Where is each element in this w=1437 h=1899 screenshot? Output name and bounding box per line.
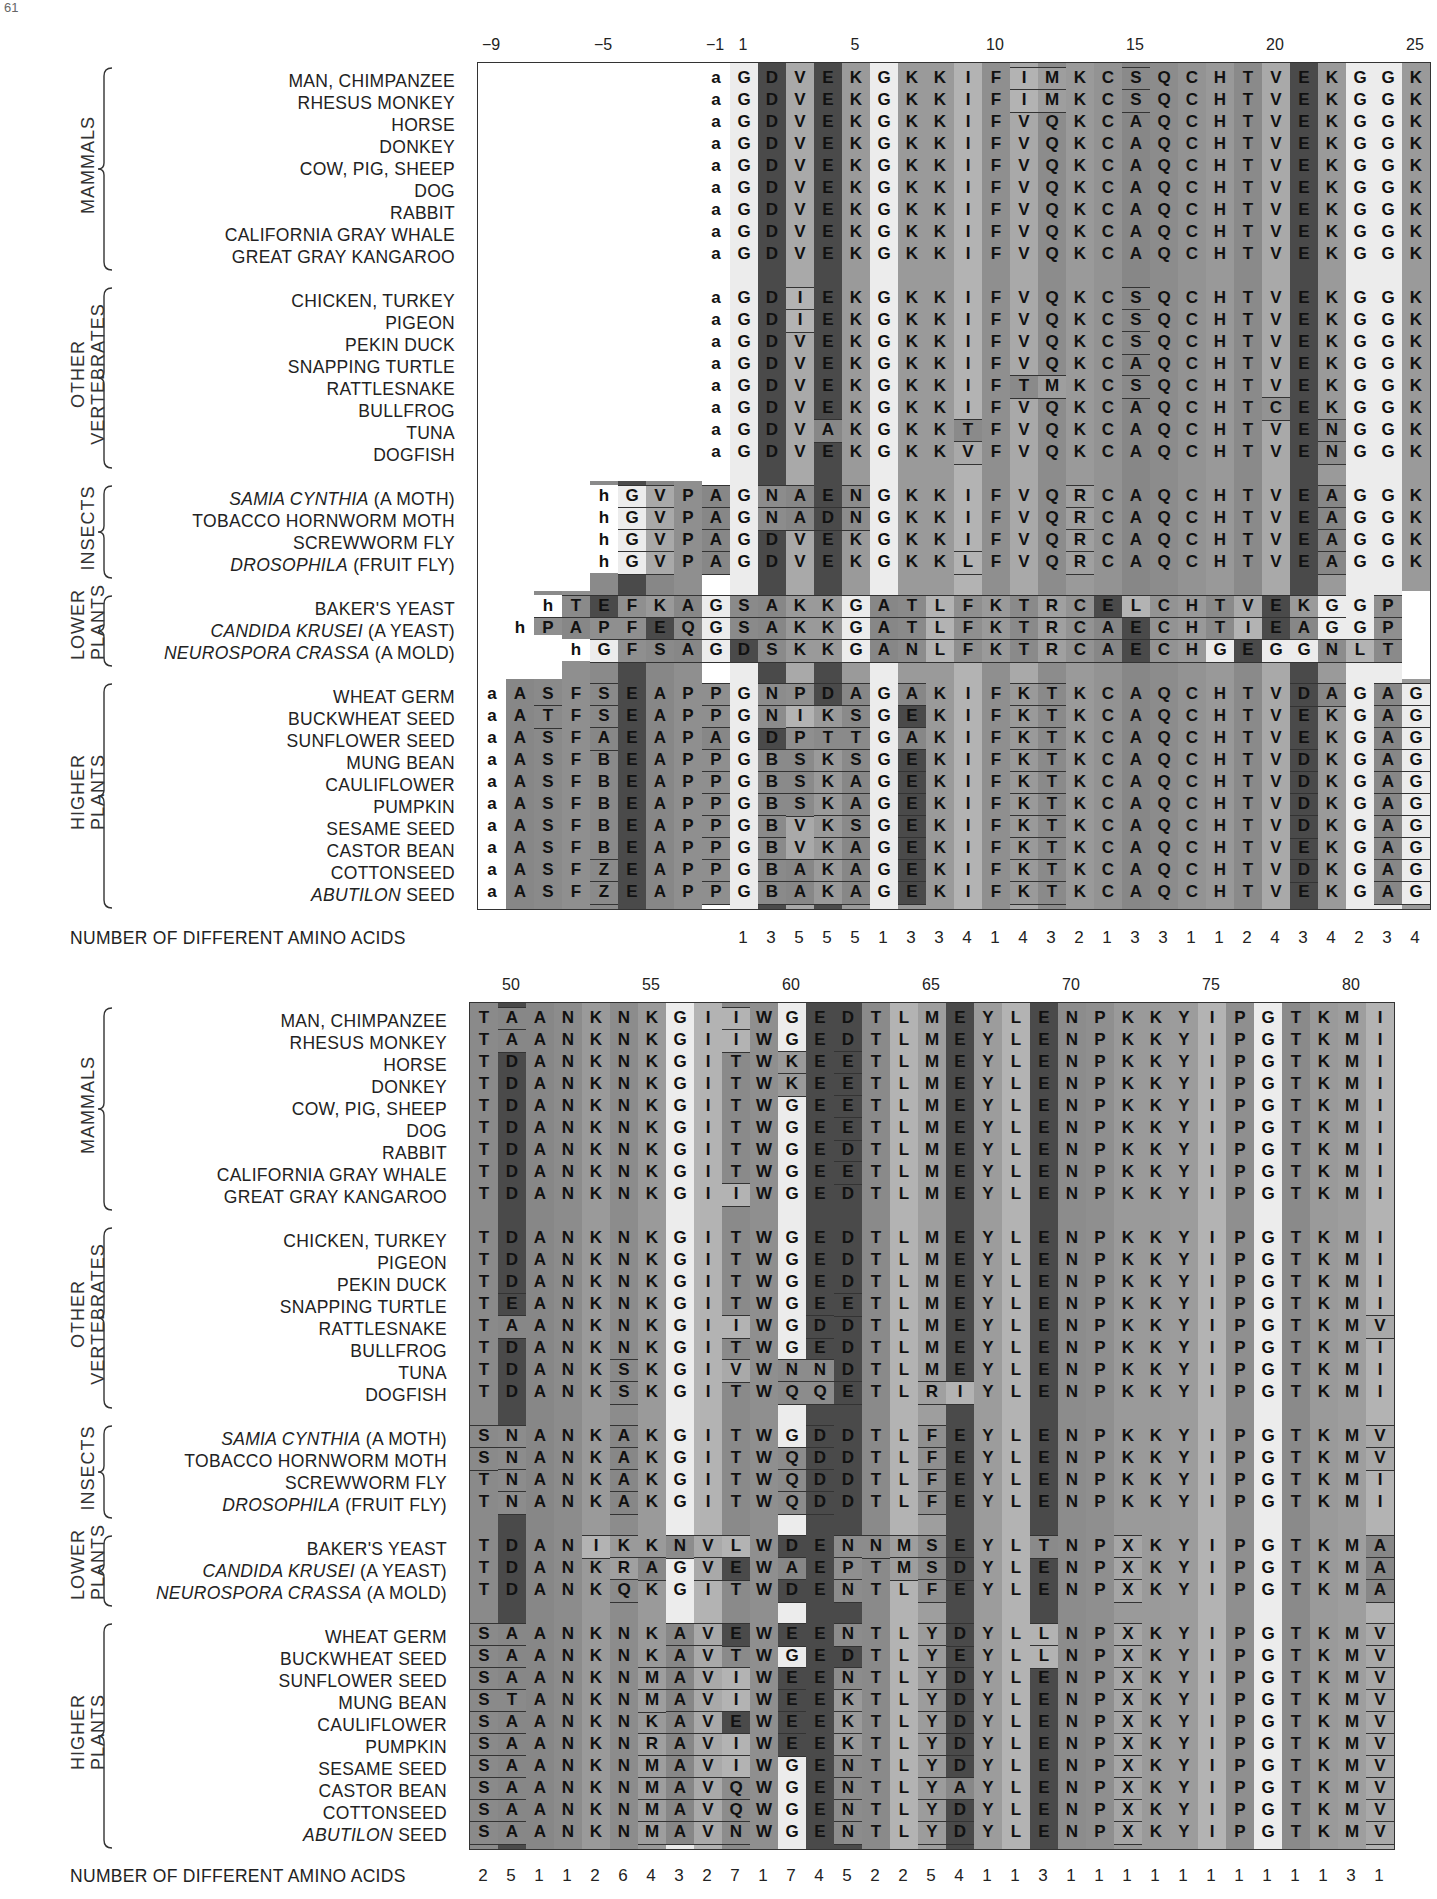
residue-cell: B <box>758 837 786 859</box>
residue-cell: V <box>1366 1645 1394 1667</box>
residue-cell: N <box>610 1183 638 1205</box>
residue-cell: G <box>666 1579 694 1601</box>
residue-cell: G <box>778 1315 806 1337</box>
residue-cell: F <box>562 881 590 903</box>
residue-cell: Y <box>1170 1469 1198 1491</box>
sequence-column: GGGGGGGGGGGGGGGGGGGGGPPTAAAAAAAAAA <box>1374 63 1403 909</box>
residue-cell: M <box>1338 1535 1366 1557</box>
residue-cell: K <box>1142 1051 1170 1073</box>
residue-cell: K <box>1142 1139 1170 1161</box>
residue-cell: M <box>638 1799 666 1821</box>
residue-cell: E <box>1290 331 1318 353</box>
residue-cell: K <box>1114 1183 1142 1205</box>
residue-cell: C <box>1178 111 1206 133</box>
residue-cell: N <box>1318 639 1346 661</box>
residue-cell: I <box>1366 1227 1394 1249</box>
residue-cell: P <box>1226 1557 1254 1579</box>
residue-cell: K <box>1402 507 1430 529</box>
residue-cell: G <box>870 221 898 243</box>
residue-cell: A <box>1122 815 1150 837</box>
residue-cell: S <box>786 749 814 771</box>
residue-cell: K <box>842 287 870 309</box>
residue-cell: A <box>526 1381 554 1403</box>
residue-cell: F <box>562 705 590 727</box>
residue-cell: I <box>954 309 982 331</box>
sequence-column: LLLLLLLLLLLLLLLLLLLLLMMLLLLLLLLLLL <box>890 1003 919 1849</box>
residue-cell: S <box>534 815 562 837</box>
residue-cell: I <box>1198 1799 1226 1821</box>
residue-cell: K <box>1318 837 1346 859</box>
residue-cell: P <box>1086 1337 1114 1359</box>
residue-cell: E <box>946 1117 974 1139</box>
species-label: SNAPPING TURTLE <box>288 356 455 378</box>
residue-cell: A <box>1122 133 1150 155</box>
residue-cell: Q <box>1150 111 1178 133</box>
residue-cell: Y <box>1170 1139 1198 1161</box>
residue-cell: N <box>1058 1491 1086 1513</box>
residue-cell: T <box>1038 705 1066 727</box>
residue-cell: L <box>1002 1117 1030 1139</box>
residue-cell: G <box>1254 1777 1282 1799</box>
residue-cell: C <box>1178 177 1206 199</box>
residue-cell: G <box>702 639 730 661</box>
residue-cell: A <box>590 727 618 749</box>
residue-cell: G <box>730 683 758 705</box>
residue-cell: K <box>814 859 842 881</box>
residue-cell: G <box>1254 1227 1282 1249</box>
residue-cell: G <box>1346 441 1374 463</box>
residue-cell: E <box>806 1183 834 1205</box>
residue-cell: E <box>898 793 926 815</box>
residue-cell: I <box>954 111 982 133</box>
residue-cell: A <box>842 837 870 859</box>
residue-cell: A <box>842 771 870 793</box>
residue-cell: V <box>786 177 814 199</box>
different-amino-acid-count: 4 <box>1270 928 1279 948</box>
residue-cell: G <box>1254 1183 1282 1205</box>
residue-cell: P <box>1226 1623 1254 1645</box>
residue-cell: N <box>1058 1535 1086 1557</box>
residue-cell: S <box>590 683 618 705</box>
residue-cell: T <box>1282 1689 1310 1711</box>
residue-cell: I <box>722 1183 750 1205</box>
residue-cell: K <box>610 1535 638 1557</box>
residue-cell: a <box>702 353 730 375</box>
residue-cell: Q <box>1150 89 1178 111</box>
residue-cell: Y <box>918 1689 946 1711</box>
position-tick: 50 <box>502 976 520 994</box>
residue-cell: M <box>1338 1359 1366 1381</box>
residue-cell: N <box>554 1073 582 1095</box>
residue-cell: K <box>1402 397 1430 419</box>
residue-cell: M <box>1338 1315 1366 1337</box>
residue-cell: K <box>638 1249 666 1271</box>
residue-cell: T <box>1206 617 1234 639</box>
residue-cell: K <box>926 199 954 221</box>
different-amino-acid-count: 2 <box>1074 928 1083 948</box>
residue-cell: K <box>582 1073 610 1095</box>
sequence-column: HHHHHHHHHHHHHHHHHHHHHTTGHHHHHHHHHH <box>1206 63 1235 909</box>
residue-cell: G <box>1346 793 1374 815</box>
residue-cell: V <box>694 1777 722 1799</box>
residue-cell: K <box>898 221 926 243</box>
species-label: CANDIDA KRUSEI (A YEAST) <box>211 620 455 642</box>
residue-cell: A <box>1318 551 1346 573</box>
species-label: COW, PIG, SHEEP <box>300 158 455 180</box>
different-amino-acid-count: 4 <box>814 1866 823 1886</box>
residue-cell: K <box>1142 1227 1170 1249</box>
residue-cell: C <box>1178 199 1206 221</box>
residue-cell: I <box>1198 1777 1226 1799</box>
species-label: SUNFLOWER SEED <box>278 1670 447 1692</box>
residue-cell: I <box>1198 1139 1226 1161</box>
residue-cell: Q <box>1150 881 1178 903</box>
residue-cell: K <box>842 529 870 551</box>
residue-cell: N <box>610 1821 638 1843</box>
residue-cell: P <box>1226 1535 1254 1557</box>
residue-cell: A <box>666 1799 694 1821</box>
residue-cell: G <box>666 1425 694 1447</box>
residue-cell: H <box>1206 441 1234 463</box>
residue-cell: L <box>1002 1557 1030 1579</box>
residue-cell: I <box>1198 1447 1226 1469</box>
residue-cell: L <box>890 1161 918 1183</box>
residue-cell: M <box>1338 1469 1366 1491</box>
species-label: TOBACCO HORNWORM MOTH <box>184 1450 447 1472</box>
residue-cell: T <box>722 1051 750 1073</box>
